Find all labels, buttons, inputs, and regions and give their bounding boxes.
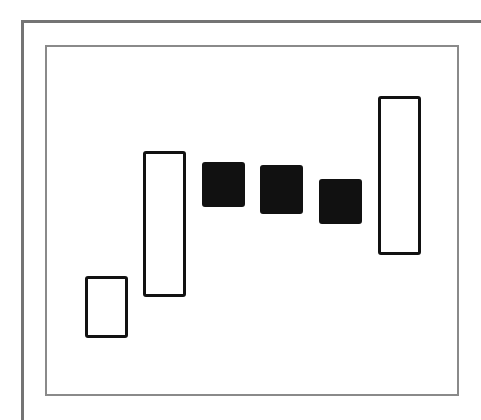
candle-2 bbox=[143, 151, 186, 297]
candle-1 bbox=[85, 276, 128, 338]
candle-3 bbox=[202, 162, 245, 207]
plot-area bbox=[45, 45, 459, 396]
candle-6 bbox=[378, 96, 421, 256]
candle-5 bbox=[319, 179, 362, 224]
candle-4 bbox=[260, 165, 303, 214]
